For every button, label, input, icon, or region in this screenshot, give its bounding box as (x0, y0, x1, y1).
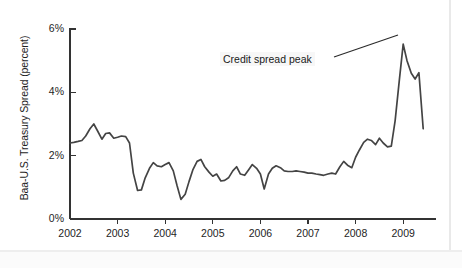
annotation-credit-spread-peak: Credit spread peak (220, 52, 315, 66)
figure-page: Baa-U.S. Treasury Spread (percent) 0%2%4… (0, 0, 462, 268)
chart-series (70, 44, 423, 199)
x-axis-tick-label: 2008 (334, 227, 378, 239)
x-axis-tick-label: 2007 (286, 227, 330, 239)
x-axis-tick-label: 2004 (143, 227, 187, 239)
x-axis-tick-label: 2003 (96, 227, 140, 239)
y-axis-tick-label: 4% (30, 85, 64, 97)
x-axis-tick-label: 2009 (381, 227, 425, 239)
y-axis-tick-label: 6% (30, 22, 64, 34)
x-axis-tick-label: 2006 (238, 227, 282, 239)
y-axis-tick-label: 0% (30, 212, 64, 224)
y-axis-tick-label: 2% (30, 149, 64, 161)
page-shadow (0, 252, 462, 268)
x-axis-tick-label: 2002 (48, 227, 92, 239)
annotation-leader (334, 35, 398, 57)
chart-plot-area (0, 0, 450, 252)
line-chart-figure: Baa-U.S. Treasury Spread (percent) 0%2%4… (0, 0, 450, 252)
series-line (70, 44, 423, 199)
x-axis-tick-label: 2005 (191, 227, 235, 239)
annotation-leader-line (334, 35, 398, 57)
